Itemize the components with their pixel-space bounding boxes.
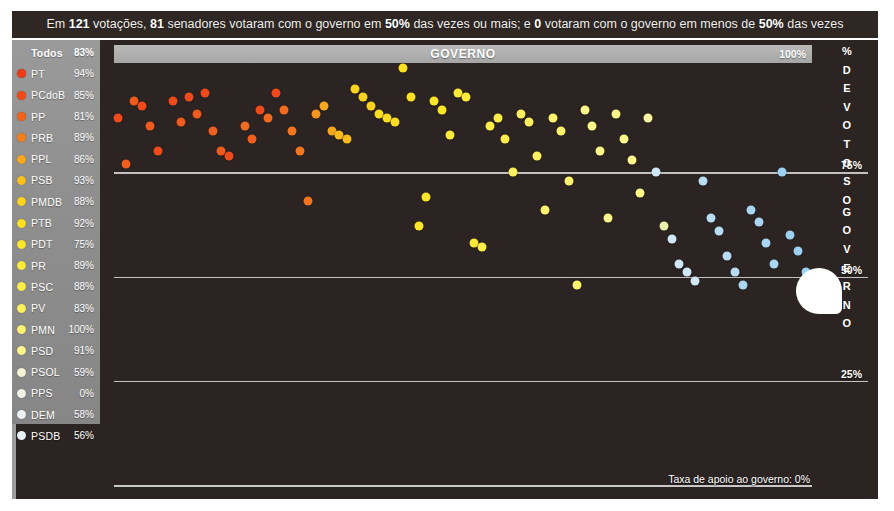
- data-point[interactable]: [406, 93, 415, 102]
- data-point[interactable]: [343, 134, 352, 143]
- data-point[interactable]: [580, 105, 589, 114]
- data-point[interactable]: [541, 205, 550, 214]
- data-point[interactable]: [145, 122, 154, 131]
- data-point[interactable]: [722, 251, 731, 260]
- data-point[interactable]: [414, 222, 423, 231]
- legend-row[interactable]: PSDB56%: [12, 425, 100, 446]
- data-point[interactable]: [707, 214, 716, 223]
- legend-row[interactable]: PV83%: [12, 298, 100, 319]
- legend-row[interactable]: PRB89%: [12, 127, 100, 148]
- data-point[interactable]: [794, 247, 803, 256]
- legend-row[interactable]: PR89%: [12, 255, 100, 276]
- legend-row[interactable]: PSD91%: [12, 340, 100, 361]
- data-point[interactable]: [635, 189, 644, 198]
- data-point[interactable]: [770, 259, 779, 268]
- data-point[interactable]: [477, 243, 486, 252]
- data-point[interactable]: [548, 114, 557, 123]
- data-point[interactable]: [525, 118, 534, 127]
- gridline: [114, 172, 868, 174]
- data-point[interactable]: [121, 159, 130, 168]
- data-point[interactable]: [446, 130, 455, 139]
- data-point[interactable]: [248, 134, 257, 143]
- data-point[interactable]: [754, 218, 763, 227]
- data-point[interactable]: [287, 126, 296, 135]
- data-point[interactable]: [596, 147, 605, 156]
- data-point[interactable]: [264, 114, 273, 123]
- data-point[interactable]: [738, 280, 747, 289]
- data-point[interactable]: [604, 214, 613, 223]
- legend-row[interactable]: PCdoB85%: [12, 85, 100, 106]
- data-point[interactable]: [564, 176, 573, 185]
- data-point[interactable]: [683, 268, 692, 277]
- data-point[interactable]: [438, 105, 447, 114]
- data-point[interactable]: [572, 280, 581, 289]
- data-point[interactable]: [272, 89, 281, 98]
- data-point[interactable]: [240, 122, 249, 131]
- data-point[interactable]: [730, 268, 739, 277]
- data-point[interactable]: [517, 109, 526, 118]
- legend-row[interactable]: PPS0%: [12, 383, 100, 404]
- data-point[interactable]: [137, 101, 146, 110]
- legend-row[interactable]: PSB93%: [12, 170, 100, 191]
- scatter-plot-area[interactable]: GOVERNO 100% 75%50%25% Taxa de apoio ao …: [100, 40, 816, 499]
- data-point[interactable]: [659, 222, 668, 231]
- data-point[interactable]: [185, 93, 194, 102]
- data-point[interactable]: [351, 84, 360, 93]
- data-point[interactable]: [778, 168, 787, 177]
- data-point[interactable]: [628, 155, 637, 164]
- data-point[interactable]: [620, 134, 629, 143]
- data-point[interactable]: [762, 239, 771, 248]
- legend-row[interactable]: PMN100%: [12, 319, 100, 340]
- data-point[interactable]: [208, 126, 217, 135]
- data-point[interactable]: [367, 101, 376, 110]
- data-point[interactable]: [280, 105, 289, 114]
- data-point[interactable]: [200, 89, 209, 98]
- legend-row[interactable]: PT94%: [12, 63, 100, 84]
- data-point[interactable]: [746, 205, 755, 214]
- party-legend-sidebar[interactable]: Todos 83% PT94%PCdoB85%PP81%PRB89%PPL86%…: [12, 40, 100, 424]
- legend-row[interactable]: DEM58%: [12, 404, 100, 425]
- data-point[interactable]: [193, 109, 202, 118]
- data-point[interactable]: [675, 259, 684, 268]
- data-point[interactable]: [667, 234, 676, 243]
- data-point[interactable]: [422, 193, 431, 202]
- data-point[interactable]: [715, 226, 724, 235]
- data-point[interactable]: [786, 230, 795, 239]
- data-point[interactable]: [359, 93, 368, 102]
- data-point[interactable]: [612, 109, 621, 118]
- data-point[interactable]: [651, 168, 660, 177]
- legend-row[interactable]: PMDB88%: [12, 191, 100, 212]
- data-point[interactable]: [224, 151, 233, 160]
- data-point[interactable]: [153, 147, 162, 156]
- data-point[interactable]: [699, 176, 708, 185]
- legend-row[interactable]: PSOL59%: [12, 361, 100, 382]
- data-point[interactable]: [556, 126, 565, 135]
- headline-banner: Em 121 votações, 81 senadores votaram co…: [12, 11, 878, 38]
- data-point[interactable]: [493, 114, 502, 123]
- data-point[interactable]: [390, 118, 399, 127]
- data-point[interactable]: [643, 114, 652, 123]
- legend-row-all[interactable]: Todos 83%: [12, 42, 100, 63]
- data-point[interactable]: [485, 122, 494, 131]
- legend-row[interactable]: PTB92%: [12, 212, 100, 233]
- data-point[interactable]: [691, 276, 700, 285]
- data-point[interactable]: [501, 134, 510, 143]
- legend-row[interactable]: PPL86%: [12, 148, 100, 169]
- data-point[interactable]: [588, 122, 597, 131]
- data-point[interactable]: [461, 93, 470, 102]
- data-point[interactable]: [169, 97, 178, 106]
- data-point[interactable]: [509, 168, 518, 177]
- data-point[interactable]: [398, 64, 407, 73]
- data-point[interactable]: [295, 147, 304, 156]
- legend-row[interactable]: PSC88%: [12, 276, 100, 297]
- data-point[interactable]: [311, 109, 320, 118]
- data-point[interactable]: [114, 114, 123, 123]
- data-point[interactable]: [303, 197, 312, 206]
- data-point[interactable]: [256, 105, 265, 114]
- data-point[interactable]: [533, 151, 542, 160]
- data-point[interactable]: [177, 118, 186, 127]
- legend-row[interactable]: PDT75%: [12, 234, 100, 255]
- legend-row[interactable]: PP81%: [12, 106, 100, 127]
- data-point[interactable]: [319, 101, 328, 110]
- data-point[interactable]: [430, 97, 439, 106]
